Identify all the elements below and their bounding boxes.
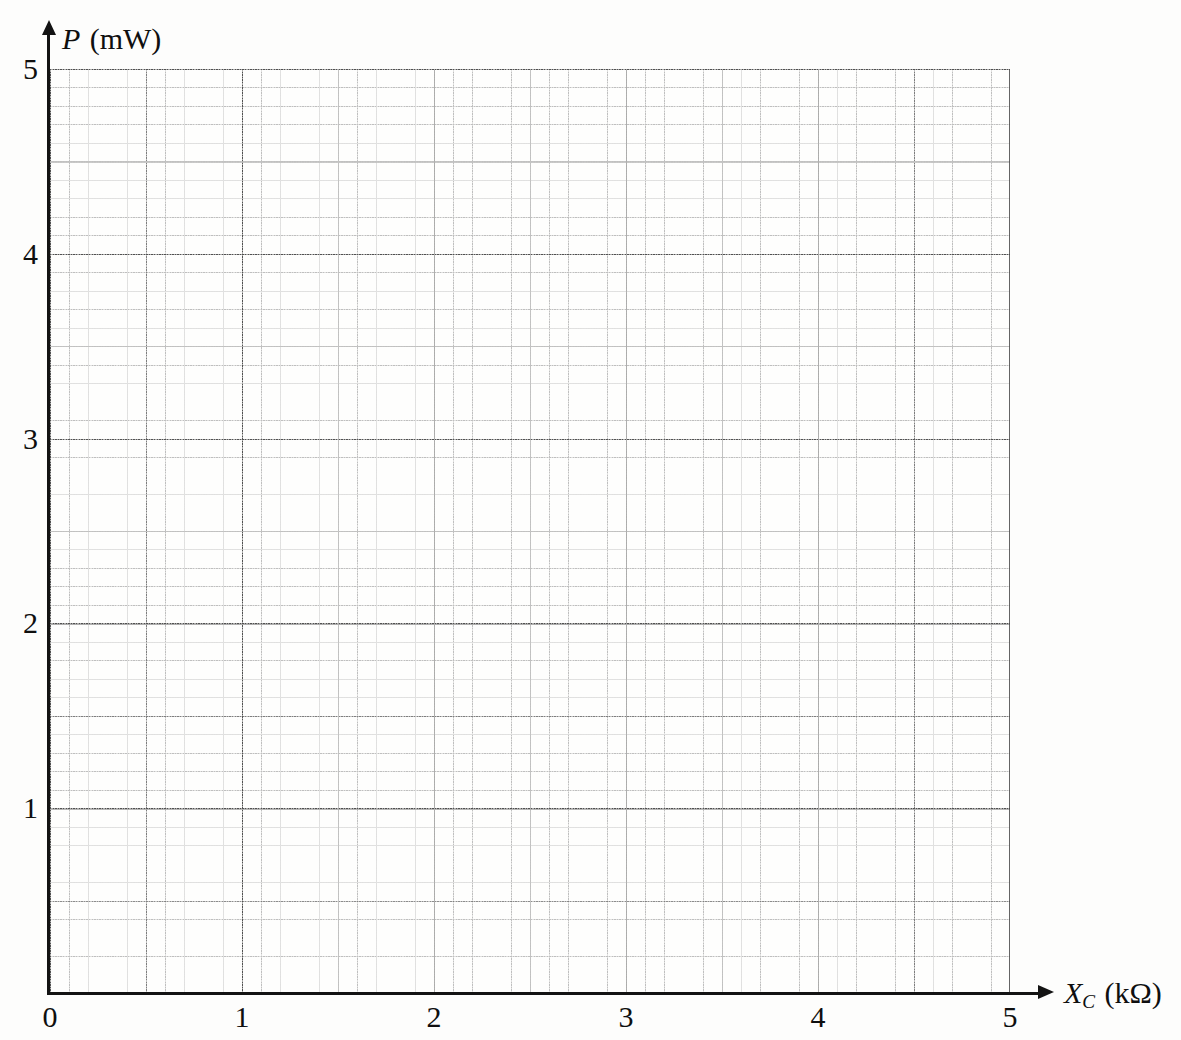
x-tick-label-4: 4 bbox=[798, 1002, 838, 1032]
y-tick-label-2: 2 bbox=[4, 608, 38, 638]
x-tick-label-3: 3 bbox=[606, 1002, 646, 1032]
x-tick-label-2: 2 bbox=[414, 1002, 454, 1032]
x-tick-label-0: 0 bbox=[30, 1002, 70, 1032]
x-axis-line bbox=[47, 992, 1043, 995]
y-axis-title: P (mW) bbox=[62, 22, 161, 56]
x-axis-arrow-icon bbox=[1038, 985, 1054, 999]
y-tick-label-3: 3 bbox=[4, 424, 38, 454]
x-axis-unit: (kΩ) bbox=[1104, 976, 1161, 1009]
plot-area bbox=[50, 69, 1010, 993]
x-axis-symbol: X bbox=[1064, 976, 1082, 1009]
y-tick-label-1: 1 bbox=[4, 793, 38, 823]
x-tick-label-1: 1 bbox=[222, 1002, 262, 1032]
y-axis-arrow-icon bbox=[42, 20, 56, 35]
x-axis-subscript: C bbox=[1082, 991, 1095, 1012]
y-axis-symbol: P bbox=[62, 22, 80, 55]
x-tick-label-5: 5 bbox=[990, 1002, 1030, 1032]
grid-right-edge bbox=[1009, 69, 1010, 993]
y-tick-label-5: 5 bbox=[4, 54, 38, 84]
y-axis-line bbox=[47, 30, 50, 995]
grid-major-lines bbox=[50, 69, 1010, 993]
y-tick-label-4: 4 bbox=[4, 239, 38, 269]
x-axis-title: XC (kΩ) bbox=[1064, 976, 1162, 1013]
graph-paper-figure: 5 4 3 2 1 0 1 2 3 4 5 P (mW) XC (kΩ) bbox=[0, 0, 1181, 1040]
y-axis-unit: (mW) bbox=[90, 22, 162, 55]
